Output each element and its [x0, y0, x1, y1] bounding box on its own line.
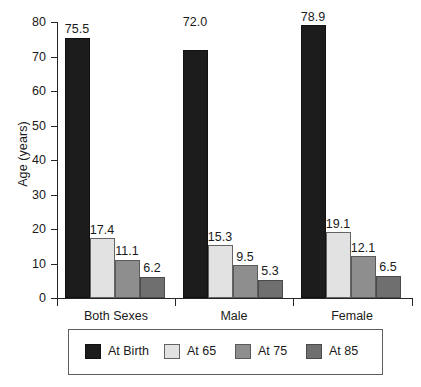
bar-value-female-at-birth: 78.9 — [290, 11, 336, 24]
bar-value-both-sexes-at-85: 6.2 — [129, 262, 175, 275]
bar-value-both-sexes-at-75: 11.1 — [104, 245, 150, 258]
x-group-label-male: Male — [174, 309, 294, 323]
legend: At Birth At 65 At 75 At 85 — [68, 329, 383, 375]
bar-both-sexes-at-birth — [65, 38, 90, 299]
legend-item-at-birth: At Birth — [85, 344, 149, 359]
legend-item-at-75: At 75 — [235, 344, 287, 359]
bar-value-male-at-75: 9.5 — [222, 251, 268, 264]
legend-label-at-65: At 65 — [187, 345, 216, 358]
x-tick-start — [57, 299, 58, 306]
y-tick-label-30: 30 — [10, 189, 46, 201]
bar-male-at-birth — [183, 50, 208, 298]
bar-both-sexes-at-85 — [140, 277, 165, 298]
y-tick-20 — [51, 229, 58, 230]
bar-value-male-at-65: 15.3 — [197, 231, 243, 244]
x-group-label-female: Female — [292, 309, 412, 323]
y-tick-70 — [51, 57, 58, 58]
bar-value-female-at-85: 6.5 — [365, 261, 411, 274]
y-tick-60 — [51, 91, 58, 92]
legend-label-at-75: At 75 — [258, 345, 287, 358]
bar-female-at-birth — [301, 25, 326, 298]
bar-female-at-85 — [376, 276, 401, 298]
legend-swatch-at-65-icon — [164, 344, 180, 359]
y-tick-label-70: 70 — [10, 51, 46, 63]
legend-item-at-65: At 65 — [164, 344, 216, 359]
bar-chart: Age (years) 80 70 60 50 40 30 20 10 0 75… — [0, 0, 421, 387]
legend-label-at-birth: At Birth — [108, 345, 149, 358]
y-tick-label-0: 0 — [10, 292, 46, 304]
legend-swatch-at-85-icon — [306, 344, 322, 359]
y-tick-30 — [51, 195, 58, 196]
y-tick-label-80: 80 — [10, 16, 46, 28]
y-tick-40 — [51, 160, 58, 161]
bar-value-male-at-85: 5.3 — [247, 265, 293, 278]
y-tick-label-10: 10 — [10, 258, 46, 270]
y-tick-50 — [51, 126, 58, 127]
legend-swatch-at-birth-icon — [85, 344, 101, 359]
x-tick-end — [412, 299, 413, 306]
bar-value-male-at-birth: 72.0 — [172, 16, 218, 29]
x-tick-group-1 — [175, 299, 176, 306]
bar-value-female-at-65: 19.1 — [315, 218, 361, 231]
legend-item-at-85: At 85 — [306, 344, 358, 359]
x-axis-line — [57, 298, 413, 299]
y-tick-label-20: 20 — [10, 223, 46, 235]
x-tick-group-2 — [293, 299, 294, 306]
x-group-label-both-sexes: Both Sexes — [56, 309, 176, 323]
legend-label-at-85: At 85 — [329, 345, 358, 358]
legend-swatch-at-75-icon — [235, 344, 251, 359]
bar-value-both-sexes-at-birth: 75.5 — [54, 23, 100, 36]
bar-male-at-85 — [258, 280, 283, 298]
y-tick-label-40: 40 — [10, 154, 46, 166]
y-tick-label-60: 60 — [10, 85, 46, 97]
bar-value-both-sexes-at-65: 17.4 — [79, 224, 125, 237]
bar-value-female-at-75: 12.1 — [340, 242, 386, 255]
y-tick-10 — [51, 264, 58, 265]
y-tick-label-50: 50 — [10, 120, 46, 132]
